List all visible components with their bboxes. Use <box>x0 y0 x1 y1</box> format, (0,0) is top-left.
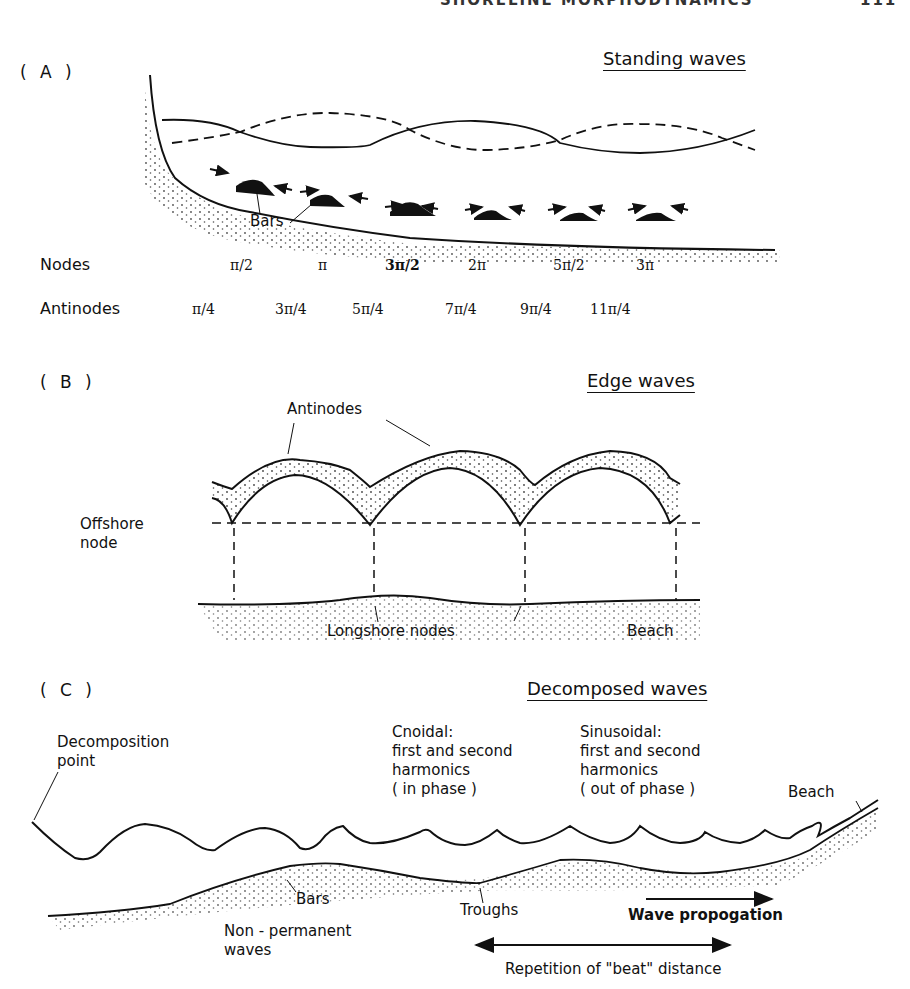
panel-c-title: Decomposed waves <box>527 678 707 699</box>
figure-drawing <box>0 0 910 989</box>
node-value: 3π/2 <box>385 257 420 273</box>
beach-label-b: Beach <box>627 622 673 641</box>
decomposition-point-label: Decomposition point <box>57 733 169 771</box>
panel-b-title: Edge waves <box>587 370 695 391</box>
panel-b-drawing <box>198 420 700 640</box>
offshore-node-label-2: node <box>80 534 117 553</box>
edge-antinodes-label: Antinodes <box>287 400 362 419</box>
bars-label: Bars <box>250 212 283 231</box>
node-value: π/2 <box>230 257 253 273</box>
wave-propagation-label: Wave propogation <box>628 906 783 925</box>
antinode-value: 5π/4 <box>352 301 384 317</box>
troughs-label: Troughs <box>460 901 518 920</box>
node-value: π <box>318 257 327 273</box>
antinode-value: 9π/4 <box>520 301 552 317</box>
sinusoidal-label: Sinusoidal: first and second harmonics (… <box>580 723 701 799</box>
bars-label-c: Bars <box>296 890 329 909</box>
non-permanent-waves-label: Non - permanent waves <box>224 922 351 960</box>
cnoidal-label: Cnoidal: first and second harmonics ( in… <box>392 723 513 799</box>
antinode-value: 7π/4 <box>445 301 477 317</box>
node-value: 3π <box>636 257 654 273</box>
antinode-value: π/4 <box>192 301 215 317</box>
panel-a-drawing <box>143 75 780 262</box>
antinode-value: 3π/4 <box>275 301 307 317</box>
longshore-nodes-label: Longshore nodes <box>327 622 455 641</box>
panel-b-label: ( B ) <box>40 372 96 392</box>
panel-a-title: Standing waves <box>603 48 746 69</box>
beat-distance-label: Repetition of "beat" distance <box>505 960 721 979</box>
panel-c-label: ( C ) <box>40 680 96 700</box>
page-number: 111 <box>860 0 897 9</box>
running-title: SHORELINE MORPHODYNAMICS <box>440 0 754 9</box>
antinodes-row-label: Antinodes <box>40 299 120 318</box>
nodes-row-label: Nodes <box>40 255 90 274</box>
node-value: 2π <box>468 257 486 273</box>
antinode-value: 11π/4 <box>590 301 631 317</box>
offshore-node-label: Offshore <box>80 515 144 534</box>
beach-label-c: Beach <box>788 783 834 802</box>
panel-a-label: ( A ) <box>20 62 76 82</box>
node-value: 5π/2 <box>553 257 585 273</box>
